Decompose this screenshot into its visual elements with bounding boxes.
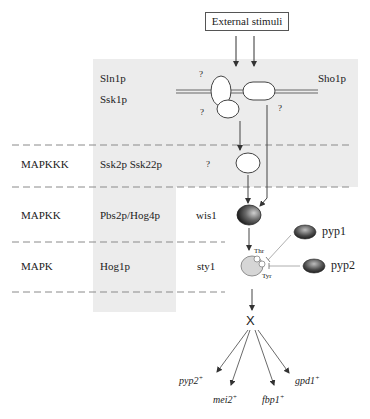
pyp1-label: pyp1	[322, 225, 346, 237]
gene-pyp2: pyp2+	[179, 376, 203, 386]
tier-label-mapkk: MAPKK	[21, 210, 61, 221]
fission-mapkkk-label: ?	[206, 160, 210, 169]
thr-label: Thr	[254, 248, 264, 255]
mapk-pathway-diagram: External stimuli	[0, 0, 370, 419]
pyp2-phosphatase	[303, 259, 325, 273]
budding-mapk-label: Hog1p	[100, 261, 130, 272]
budding-mapkkk-label: Ssk2p Ssk22p	[100, 159, 162, 170]
tier-label-mapkkk: MAPKKK	[21, 159, 69, 170]
sho1p-label: Sho1p	[318, 73, 346, 84]
pyp1-phosphatase	[294, 225, 316, 239]
unknown-mark-sho1: ?	[278, 104, 282, 113]
ssk1p-label: Ssk1p	[100, 94, 127, 105]
ssk1p-protein	[217, 100, 239, 118]
unknown-mark-sln1: ?	[199, 70, 203, 79]
arrow-sho1-to-mapkk	[260, 105, 267, 206]
unknown-mark-ssk1: ?	[200, 108, 204, 117]
pyp2-label: pyp2	[331, 259, 355, 271]
gene-fbp1: fbp1+	[262, 395, 285, 405]
mapkkk-protein	[236, 153, 260, 173]
transcription-factor-x: X	[246, 314, 255, 327]
gene-arrows	[217, 330, 289, 385]
budding-mapkk-label: Pbs2p/Hog4p	[100, 210, 160, 221]
tier-label-mapk: MAPK	[21, 261, 53, 272]
fission-mapkk-label: wis1	[196, 210, 217, 221]
sln1p-label: Sln1p	[100, 73, 126, 84]
fission-mapk-label: sty1	[197, 261, 215, 272]
mapkk-wis1-protein	[237, 205, 261, 225]
pyp1-inhibition-line	[268, 235, 291, 260]
gene-mei2: mei2+	[213, 395, 237, 405]
sho1p-sensor	[243, 82, 275, 100]
thr-site	[254, 256, 260, 262]
tyr-site	[259, 261, 265, 267]
tyr-label: Tyr	[262, 273, 272, 280]
gene-gpd1: gpd1+	[295, 376, 320, 386]
